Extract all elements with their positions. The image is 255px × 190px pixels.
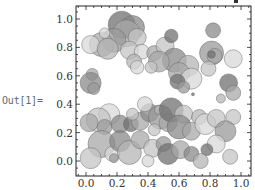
disk bbox=[88, 83, 100, 95]
disk bbox=[216, 94, 225, 103]
disk bbox=[226, 85, 241, 100]
x-tick-label: 0.8 bbox=[202, 177, 219, 189]
disk bbox=[137, 97, 152, 112]
disk bbox=[191, 93, 194, 96]
disk bbox=[80, 148, 101, 169]
disk bbox=[224, 50, 242, 68]
disk bbox=[109, 154, 118, 163]
disk bbox=[82, 36, 100, 54]
y-tick-label: 1.0 bbox=[56, 13, 73, 25]
disk bbox=[148, 124, 160, 136]
y-tick-label: 0.2 bbox=[56, 127, 73, 139]
x-tick-label: 0.4 bbox=[140, 177, 157, 189]
y-tick-label: 0.0 bbox=[56, 155, 73, 167]
disk bbox=[206, 23, 221, 38]
disk bbox=[142, 155, 154, 167]
disk bbox=[208, 51, 216, 59]
disk bbox=[201, 61, 216, 76]
disk bbox=[193, 154, 208, 169]
disk bbox=[97, 38, 118, 59]
y-tick-label: 0.4 bbox=[56, 98, 73, 110]
y-tick-label: 0.6 bbox=[56, 70, 73, 82]
y-tick-label: 0.8 bbox=[56, 41, 73, 53]
x-tick-label: 0.6 bbox=[171, 177, 188, 189]
disk bbox=[130, 61, 144, 75]
disk bbox=[80, 114, 98, 132]
x-tick-label: 1.0 bbox=[233, 177, 250, 189]
x-tick-label: 0.2 bbox=[109, 177, 126, 189]
disk bbox=[178, 81, 190, 93]
disk bbox=[127, 108, 139, 120]
disk-layer bbox=[80, 11, 242, 168]
x-tick-label: 0.0 bbox=[78, 177, 95, 189]
disk bbox=[145, 61, 157, 73]
disk bbox=[165, 29, 179, 43]
disk bbox=[99, 28, 110, 39]
disk-plot: 0.00.20.40.60.81.00.00.20.40.60.81.0 bbox=[0, 0, 255, 190]
disk bbox=[223, 149, 238, 164]
